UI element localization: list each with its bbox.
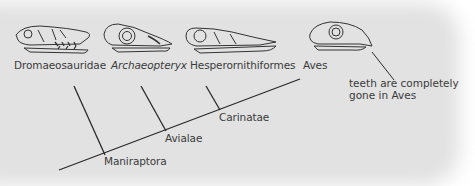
branch-archaeopteryx: [141, 86, 166, 131]
clade-label-carinatae: Carinatae: [219, 111, 269, 123]
taxon-label-hesperornithiformes: Hesperornithiformes: [190, 59, 295, 71]
taxon-label-aves: Aves: [303, 59, 327, 71]
teeth-annotation: teeth are completely gone in Aves: [349, 77, 459, 101]
branch-hesperornithiformes: [206, 86, 220, 110]
cladogram-figure: Dromaeosauridae Archaeopteryx Hesperorni…: [0, 0, 475, 186]
bird-skull-icon: [310, 22, 372, 50]
archaeopteryx-skull-icon: [104, 24, 172, 52]
main-branch: [59, 79, 300, 170]
annotation-line-2: gone in Aves: [349, 89, 459, 101]
clade-label-avialae: Avialae: [165, 132, 202, 144]
taxon-label-archaeopteryx: Archaeopteryx: [111, 59, 187, 71]
hesperornithiform-skull-icon: [186, 28, 276, 53]
annotation-line-1: teeth are completely: [349, 77, 459, 89]
branch-dromaeosauridae: [74, 86, 105, 155]
clade-label-maniraptora: Maniraptora: [104, 155, 167, 167]
annotation-pointer: [372, 52, 394, 80]
taxon-label-dromaeosauridae: Dromaeosauridae: [14, 59, 106, 71]
dromaeosaurid-skull-icon: [16, 26, 90, 53]
